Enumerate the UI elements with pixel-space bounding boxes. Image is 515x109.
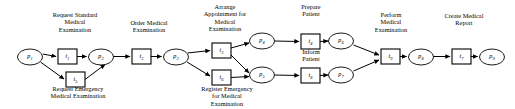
- cap-arrange: Arrange Appointment for Medical Examinat…: [186, 3, 264, 33]
- arc-t4-to-p6: [320, 41, 328, 42]
- place-p8[interactable]: p8: [409, 49, 434, 65]
- place-p9[interactable]: p9: [480, 49, 505, 65]
- transition-t8[interactable]: t8: [301, 68, 320, 83]
- arc-p6-to-t9: [354, 45, 380, 55]
- arc-p5-to-t8: [275, 75, 300, 76]
- arc-p1-to-t1: [43, 54, 56, 57]
- place-p5[interactable]: p5: [250, 67, 275, 83]
- transition-t9[interactable]: t9: [381, 49, 400, 64]
- cap-request-standard: Request Standard Medical Examination: [33, 11, 117, 33]
- transition-t1[interactable]: t1: [58, 49, 77, 64]
- place-p1[interactable]: p1: [18, 49, 43, 65]
- arc-p7-to-t9: [354, 60, 380, 71]
- arc-t3-to-p4: [231, 43, 249, 48]
- arc-p4-to-t4: [275, 41, 300, 42]
- cap-perform-medical: Perform Medical Examination: [352, 11, 430, 33]
- cap-request-emergency: Request Emergency Medical Examination: [22, 85, 134, 100]
- cap-register-emergency: Register Emergency for Medical Examinati…: [177, 85, 277, 107]
- arc-t8-to-p7: [320, 75, 328, 76]
- arc-p3-to-t6: [187, 62, 210, 76]
- place-p4[interactable]: p4: [250, 33, 275, 49]
- transition-t4[interactable]: t4: [301, 34, 320, 49]
- transition-t6[interactable]: t6: [212, 70, 231, 85]
- petri-net-diagram: p1p2p3p4p5p6p7p8p9t1t5t2t3t6t4t8t9t7 Req…: [0, 0, 515, 109]
- transition-t2[interactable]: t2: [132, 49, 151, 64]
- arc-p1-to-t5: [41, 62, 65, 79]
- cap-inform-patient: Inform Patient: [281, 48, 341, 63]
- cap-prepare-patient: Prepare Patient: [281, 3, 341, 18]
- nodes-layer: p1p2p3p4p5p6p7p8p9t1t5t2t3t6t4t8t9t7: [18, 33, 505, 87]
- arc-t3-to-p5: [231, 55, 249, 73]
- arc-p3-to-t3: [188, 51, 211, 54]
- transition-t7[interactable]: t7: [452, 49, 471, 64]
- place-p7[interactable]: p7: [329, 67, 354, 83]
- cap-create-report: Create Medical Report: [424, 12, 504, 27]
- arc-t6-to-p5: [231, 77, 249, 78]
- transition-t3[interactable]: t3: [212, 43, 231, 58]
- place-p2[interactable]: p2: [89, 49, 114, 65]
- place-p6[interactable]: p6: [329, 33, 354, 49]
- arc-t5-to-p2: [85, 65, 105, 80]
- cap-order-medical: Order Medical Examination: [112, 19, 186, 34]
- place-p3[interactable]: p3: [164, 49, 189, 65]
